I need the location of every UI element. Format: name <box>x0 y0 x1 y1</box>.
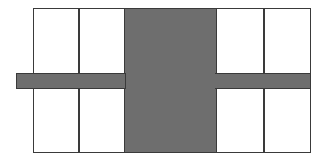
horizontal-bar-right <box>215 73 311 89</box>
horizontal-bar-left <box>16 73 126 89</box>
center-block-bar-junction <box>126 74 216 88</box>
